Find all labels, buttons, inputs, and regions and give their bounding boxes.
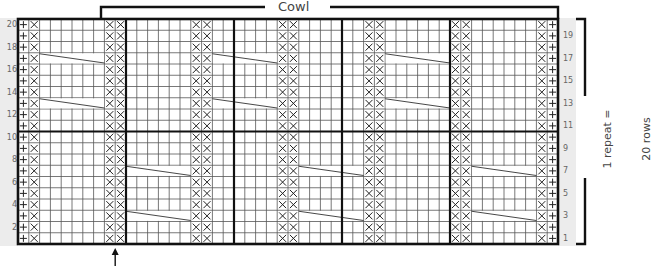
repeat-bracket-top (576, 19, 585, 96)
repeat-label-line2: 20 rows (640, 89, 653, 189)
up-arrow-icon (112, 248, 119, 255)
repeat-bracket-bottom (576, 178, 585, 244)
title-bracket-left (101, 7, 265, 19)
title-bracket-right (330, 7, 558, 19)
